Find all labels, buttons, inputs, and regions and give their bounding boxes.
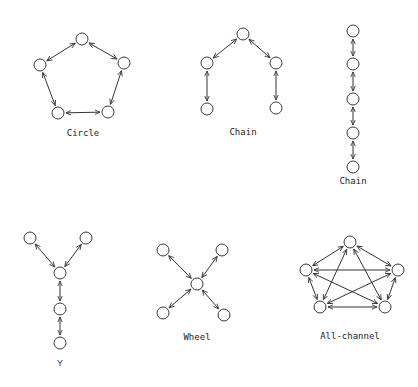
network-label: All-channel — [320, 331, 380, 341]
network-wheel: Wheel — [157, 244, 230, 342]
node-circle-icon — [300, 264, 312, 276]
node-circle-icon — [118, 57, 130, 69]
node-circle-icon — [270, 57, 282, 69]
node-circle-icon — [102, 106, 114, 118]
network-circle: Circle — [34, 33, 130, 138]
node-circle-icon — [80, 232, 92, 244]
bidirectional-arrow — [110, 71, 121, 105]
network-label: Wheel — [183, 332, 210, 342]
network-all-channel: All-channel — [300, 236, 404, 341]
bidirectional-arrow — [43, 72, 55, 105]
node-circle-icon — [218, 309, 230, 321]
node-circle-icon — [347, 93, 359, 105]
node-circle-icon — [347, 58, 359, 70]
node-circle-icon — [191, 278, 203, 290]
network-chain-arch: Chain — [201, 28, 282, 137]
bidirectional-arrow — [309, 277, 317, 299]
node-circle-icon — [379, 301, 391, 313]
node-circle-icon — [34, 59, 46, 71]
bidirectional-arrow — [202, 290, 218, 309]
node-circle-icon — [201, 57, 213, 69]
bidirectional-arrow — [47, 43, 75, 61]
node-circle-icon — [347, 25, 359, 37]
bidirectional-arrow — [388, 278, 396, 300]
bidirectional-arrow — [213, 39, 237, 58]
node-circle-icon — [54, 337, 66, 349]
node-circle-icon — [270, 102, 282, 114]
bidirectional-arrow — [202, 256, 218, 277]
node-circle-icon — [347, 161, 359, 173]
bidirectional-arrow — [169, 289, 191, 308]
bidirectional-arrow — [35, 244, 55, 267]
node-circle-icon — [54, 303, 66, 315]
node-circle-icon — [216, 244, 228, 256]
node-circle-icon — [24, 232, 36, 244]
bidirectional-arrow — [249, 39, 270, 57]
network-label: Circle — [67, 128, 100, 138]
bidirectional-arrow — [169, 256, 192, 279]
bidirectional-arrow — [313, 273, 378, 303]
bidirectional-arrow — [354, 249, 381, 300]
network-label: Chain — [339, 176, 366, 186]
bidirectional-arrow — [357, 246, 391, 266]
network-label: Y — [57, 358, 63, 368]
node-circle-icon — [314, 301, 326, 313]
bidirectional-arrow — [66, 112, 100, 113]
node-circle-icon — [54, 267, 66, 279]
bidirectional-arrow — [313, 246, 344, 265]
node-circle-icon — [52, 107, 64, 119]
node-circle-icon — [157, 307, 169, 319]
network-y: Y — [24, 232, 92, 368]
network-diagram: CircleChainChainYWheelAll-channel — [0, 0, 418, 387]
node-circle-icon — [344, 236, 356, 248]
bidirectional-arrow — [89, 43, 117, 59]
node-circle-icon — [157, 244, 169, 256]
node-circle-icon — [76, 33, 88, 45]
network-chain-vertical: Chain — [339, 25, 366, 186]
node-circle-icon — [201, 103, 213, 115]
node-circle-icon — [392, 264, 404, 276]
bidirectional-arrow — [65, 244, 81, 266]
node-circle-icon — [347, 127, 359, 139]
node-circle-icon — [237, 28, 249, 40]
network-label: Chain — [229, 127, 256, 137]
